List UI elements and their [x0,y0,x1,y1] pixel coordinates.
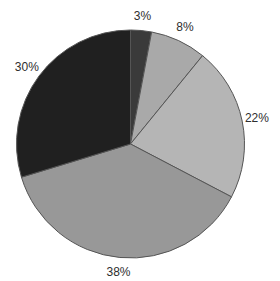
pie-slice-label: 38% [106,265,130,279]
pie-chart-svg: 3%8%22%38%30% [0,0,280,281]
pie-slice-label: 3% [134,9,152,23]
pie-slice-label: 30% [15,60,39,74]
pie-slice-label: 8% [176,20,194,34]
pie-chart-figure: 3%8%22%38%30% [0,0,280,281]
pie-slice-label: 22% [245,111,269,125]
